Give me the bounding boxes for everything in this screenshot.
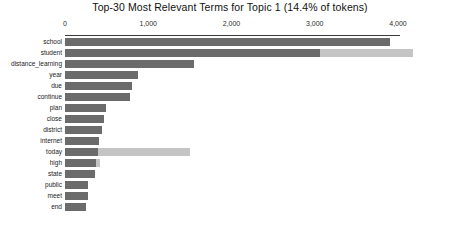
bar-label-meet: meet	[0, 192, 62, 200]
relevant-terms-bar-chart: Top-30 Most Relevant Terms for Topic 1 (…	[0, 0, 460, 231]
bar-row[interactable]: high	[0, 158, 460, 169]
bar-label-today: today	[0, 148, 62, 156]
topic-frequency-bar	[65, 170, 95, 178]
topic-frequency-bar	[65, 93, 130, 101]
bar-row[interactable]: continue	[0, 92, 460, 103]
topic-frequency-bar	[65, 38, 390, 46]
topic-frequency-bar	[65, 137, 99, 145]
bar-row[interactable]: student	[0, 48, 460, 59]
bar-label-plan: plan	[0, 104, 62, 112]
topic-frequency-bar	[65, 181, 88, 189]
topic-frequency-bar	[65, 60, 194, 68]
bar-row[interactable]: end	[0, 202, 460, 213]
bar-row[interactable]: district	[0, 125, 460, 136]
bar-row[interactable]: school	[0, 37, 460, 48]
bar-label-public: public	[0, 181, 62, 189]
topic-frequency-bar	[65, 192, 88, 200]
topic-frequency-bar	[65, 104, 106, 112]
topic-frequency-bar	[65, 203, 86, 211]
bar-label-distance_learning: distance_learning	[0, 60, 62, 68]
bar-row[interactable]: plan	[0, 103, 460, 114]
bar-label-continue: continue	[0, 93, 62, 101]
x-axis-tick-3: 3,000	[306, 20, 324, 27]
x-axis-tick-4: 4,000	[389, 20, 407, 27]
topic-frequency-bar	[65, 82, 132, 90]
x-axis-tick-0: 0	[63, 20, 67, 27]
chart-title: Top-30 Most Relevant Terms for Topic 1 (…	[0, 1, 460, 13]
bar-label-high: high	[0, 159, 62, 167]
bar-label-internet: internet	[0, 137, 62, 145]
bar-row[interactable]: close	[0, 114, 460, 125]
x-axis-line	[65, 35, 400, 36]
topic-frequency-bar	[65, 148, 98, 156]
topic-frequency-bar	[65, 49, 320, 57]
topic-frequency-bar	[65, 126, 102, 134]
x-axis-tick-labels: 01,0002,0003,0004,000	[0, 20, 460, 34]
bar-label-year: year	[0, 71, 62, 79]
bar-row[interactable]: public	[0, 180, 460, 191]
bar-label-end: end	[0, 203, 62, 211]
x-axis-tick-1: 1,000	[139, 20, 157, 27]
bar-label-state: state	[0, 170, 62, 178]
bar-label-due: due	[0, 82, 62, 90]
bar-row[interactable]: due	[0, 81, 460, 92]
bars-layer: schoolstudentdistance_learningyearduecon…	[0, 37, 460, 231]
bar-row[interactable]: state	[0, 169, 460, 180]
plot-area: 01,0002,0003,0004,000 schoolstudentdista…	[0, 20, 460, 231]
bar-row[interactable]: today	[0, 147, 460, 158]
bar-row[interactable]: internet	[0, 136, 460, 147]
bar-row[interactable]: distance_learning	[0, 59, 460, 70]
bar-label-school: school	[0, 38, 62, 46]
topic-frequency-bar	[65, 115, 104, 123]
bar-row[interactable]: meet	[0, 191, 460, 202]
x-axis-tick-2: 2,000	[223, 20, 241, 27]
topic-frequency-bar	[65, 71, 138, 79]
bar-row[interactable]: year	[0, 70, 460, 81]
topic-frequency-bar	[65, 159, 96, 167]
bar-label-student: student	[0, 49, 62, 57]
bar-label-close: close	[0, 115, 62, 123]
bar-label-district: district	[0, 126, 62, 134]
